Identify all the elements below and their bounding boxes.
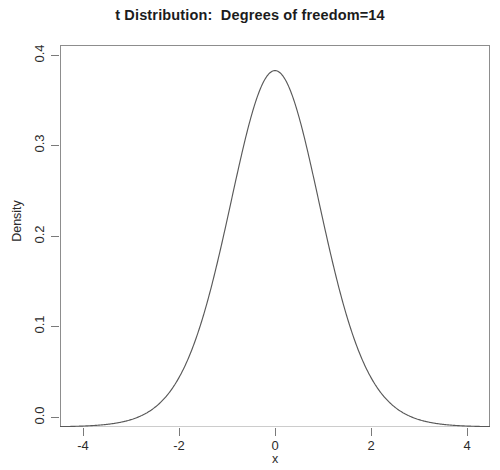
- y-tick-mark: [51, 326, 59, 327]
- y-tick-mark: [51, 236, 59, 237]
- curve-layer: [60, 45, 490, 427]
- y-tick-mark: [51, 417, 59, 418]
- x-tick-mark: [275, 428, 276, 436]
- x-tick-label: 0: [255, 438, 295, 453]
- y-tick-label: 0.3: [32, 137, 47, 153]
- x-tick-label: -4: [63, 438, 103, 453]
- x-tick-mark: [371, 428, 372, 436]
- page-title: t Distribution: Degrees of freedom=14: [0, 7, 500, 23]
- y-tick-mark: [51, 55, 59, 56]
- x-tick-mark: [467, 428, 468, 436]
- density-curve-path: [60, 71, 490, 427]
- y-axis-label: Density: [10, 189, 24, 253]
- t-distribution-plot: t Distribution: Degrees of freedom=14 -4…: [0, 0, 500, 470]
- x-tick-label: -2: [159, 438, 199, 453]
- x-tick-label: 4: [447, 438, 487, 453]
- y-tick-label: 0.1: [32, 318, 47, 334]
- x-axis-label: x: [25, 452, 500, 466]
- y-tick-label: 0.2: [32, 228, 47, 244]
- y-tick-label: 0.0: [32, 409, 47, 425]
- density-curve-svg: [60, 45, 490, 427]
- y-tick-mark: [51, 145, 59, 146]
- x-tick-mark: [83, 428, 84, 436]
- x-tick-mark: [179, 428, 180, 436]
- y-tick-label: 0.4: [32, 47, 47, 63]
- x-tick-label: 2: [351, 438, 391, 453]
